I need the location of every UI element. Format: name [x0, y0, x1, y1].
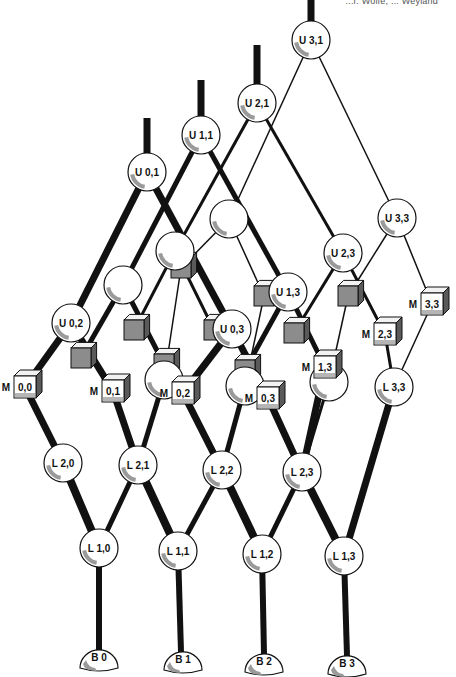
- diagram-base-nodes: B 0B 1B 2B 3: [80, 650, 366, 677]
- lattice-diagram: U 3,1U 2,1U 1,1U 0,1U 3,3U 2,3U 1,3U 0,3…: [0, 0, 456, 677]
- node-label: U 1,1: [189, 130, 213, 141]
- base-b0: B 0: [80, 650, 118, 671]
- node-label: L 3,3: [383, 382, 406, 393]
- node-l22: L 2,2: [203, 451, 241, 489]
- module-label: 0,0: [18, 382, 32, 393]
- base-label: B 3: [339, 658, 355, 669]
- module-m00: 0,0M: [2, 370, 42, 398]
- base-label: B 1: [175, 654, 191, 665]
- node-label: U 3,1: [299, 35, 323, 46]
- node-label: U 3,3: [385, 213, 409, 224]
- node-label: L 2,3: [291, 467, 314, 478]
- module-m23: 2,3M: [362, 317, 402, 345]
- module-label: 1,3: [318, 362, 332, 373]
- node-l21: L 2,1: [119, 446, 157, 484]
- base-b3: B 3: [328, 656, 366, 677]
- module-prefix: M: [302, 362, 310, 373]
- node-u13: U 1,3: [269, 273, 307, 311]
- node-label: U 2,1: [245, 98, 269, 109]
- node-u21: U 2,1: [238, 84, 276, 122]
- base-label: B 2: [256, 656, 272, 667]
- base-b1: B 1: [164, 652, 202, 673]
- module-label: 2,3: [378, 329, 392, 340]
- module-prefix: M: [2, 382, 10, 393]
- node-label: L 1,3: [333, 551, 356, 562]
- module-label: 0,3: [261, 393, 275, 404]
- node-u23: U 2,3: [324, 234, 362, 272]
- node-l23: L 2,3: [283, 453, 321, 491]
- module-m01: 0,1M: [90, 374, 130, 402]
- edge-line: [311, 40, 397, 218]
- node-label: L 1,2: [251, 549, 274, 560]
- module-m33: 3,3M: [409, 287, 449, 315]
- base-b2: B 2: [245, 654, 283, 675]
- unlabeled-node: [210, 200, 248, 238]
- node-label: L 1,1: [167, 546, 190, 557]
- node-l10: L 1,0: [80, 529, 118, 567]
- unlabeled-node: [104, 266, 142, 304]
- cube-node-icon: [124, 314, 150, 340]
- node-l33: L 3,3: [375, 368, 413, 406]
- node-label: U 1,3: [276, 287, 300, 298]
- node-l11: L 1,1: [159, 532, 197, 570]
- module-label: 3,3: [425, 299, 439, 310]
- module-label: 0,2: [176, 388, 190, 399]
- module-prefix: M: [160, 388, 168, 399]
- edge-line: [344, 387, 394, 556]
- node-u02: U 0,2: [52, 304, 90, 342]
- edge-line: [71, 172, 147, 323]
- node-u11: U 1,1: [182, 116, 220, 154]
- node-label: U 0,3: [220, 324, 244, 335]
- node-u01: U 0,1: [128, 153, 166, 191]
- node-u03: U 0,3: [213, 310, 251, 348]
- module-prefix: M: [409, 299, 417, 310]
- module-prefix: M: [362, 329, 370, 340]
- module-prefix: M: [245, 393, 253, 404]
- node-l13: L 1,3: [325, 537, 363, 575]
- module-label: 0,1: [106, 386, 120, 397]
- base-label: B 0: [91, 652, 107, 663]
- node-label: L 1,0: [88, 543, 111, 554]
- node-label: L 2,2: [211, 465, 234, 476]
- node-u31: U 3,1: [292, 21, 330, 59]
- module-prefix: M: [90, 386, 98, 397]
- node-u33: U 3,3: [378, 199, 416, 237]
- node-label: U 0,2: [59, 318, 83, 329]
- edge-line: [257, 103, 343, 253]
- unlabeled-node: [156, 232, 194, 270]
- node-label: U 2,3: [331, 248, 355, 259]
- cube-node-icon: [284, 317, 310, 343]
- module-m13: 1,3M: [302, 350, 342, 378]
- node-l12: L 1,2: [243, 535, 281, 573]
- cube-node-icon: [338, 280, 364, 306]
- node-label: L 2,0: [52, 458, 75, 469]
- node-l20: L 2,0: [44, 444, 82, 482]
- node-label: U 0,1: [135, 167, 159, 178]
- cube-node-icon: [71, 342, 97, 368]
- node-label: L 2,1: [127, 460, 150, 471]
